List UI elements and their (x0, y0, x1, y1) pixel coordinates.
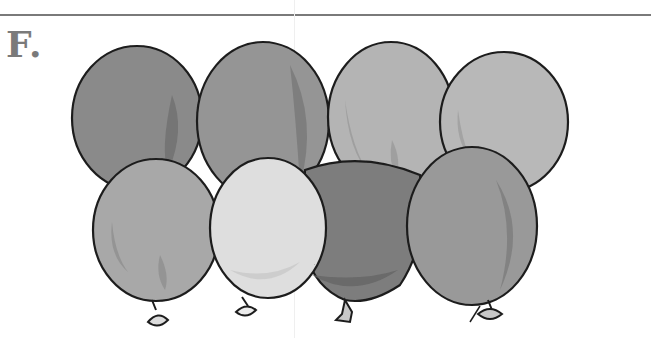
balloon-8 (407, 147, 537, 322)
balloons-illustration (0, 0, 651, 338)
balloon-6 (210, 158, 326, 316)
balloon-5 (93, 159, 219, 326)
